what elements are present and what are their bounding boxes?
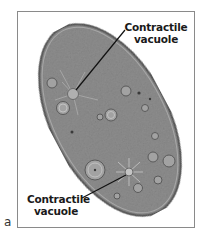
label-line: vacuole: [27, 205, 85, 217]
panel-letter: a: [4, 215, 11, 229]
label-line: Contractile: [124, 21, 188, 33]
label-contractile-vacuole-bottom: Contractile vacuole: [27, 193, 85, 217]
label-line: vacuole: [124, 33, 188, 45]
label-contractile-vacuole-top: Contractile vacuole: [124, 21, 188, 45]
label-line: Contractile: [27, 193, 85, 205]
